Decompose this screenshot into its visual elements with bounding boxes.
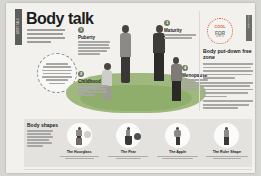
page-title: Body talk	[26, 11, 94, 27]
body-shape-item[interactable]: The Ruler Shape	[205, 123, 249, 161]
edge-tab: BODY TALK	[246, 15, 252, 41]
body-shape-label: The Ruler Shape	[205, 150, 249, 154]
body-shape-label: The Pear	[106, 150, 150, 154]
stage-childhood: 2 Childhood	[78, 71, 108, 97]
body-shape-item[interactable]: The Apple	[156, 123, 200, 161]
body-shape-item[interactable]: The Hourglass	[57, 123, 101, 161]
figure-puberty	[114, 25, 136, 83]
body-shape-desc	[205, 156, 249, 160]
footer-rule	[24, 169, 252, 170]
decorative-dot	[134, 133, 141, 140]
body-shape-desc	[106, 156, 150, 160]
badge-line-3: GIRLS	[205, 35, 235, 38]
sidebar-paragraph-1	[203, 63, 253, 79]
stage-heading-puberty: Puberty	[78, 35, 110, 40]
body-shape-desc	[57, 156, 101, 160]
stage-marker-3: 3	[164, 20, 170, 26]
sidebar-paragraph-3	[203, 100, 253, 109]
apple-figure-icon	[165, 123, 190, 148]
edge-tab-label: BODY TALK	[246, 15, 252, 29]
body-shape-label: The Hourglass	[57, 150, 101, 154]
body-shapes-intro	[27, 130, 53, 149]
page-paper: BODY TALK Body talk	[6, 3, 255, 173]
stage-heading-maturity: Maturity	[164, 28, 196, 33]
stage-body-maturity	[164, 34, 196, 39]
column-divider	[199, 11, 200, 111]
sidebar-heading: Body put-down free zone	[203, 49, 253, 60]
ruler-figure-icon	[214, 123, 239, 148]
stage-body-childhood	[78, 85, 108, 96]
badge-line-1: COOL	[205, 25, 235, 29]
stage-marker-1: 1	[78, 27, 84, 33]
standfirst-text	[27, 29, 65, 45]
stage-maturity: 3 Maturity	[164, 20, 196, 40]
body-shape-label: The Apple	[156, 150, 200, 154]
body-shape-item[interactable]: The Pear	[106, 123, 150, 161]
spine-tab-label: BODY TALK	[15, 9, 22, 45]
body-shapes-list: The Hourglass The Pear	[57, 123, 249, 161]
decorative-dot	[84, 131, 91, 138]
cool-for-girls-badge: COOL FOR GIRLS	[205, 16, 235, 46]
stage-marker-4: 4	[182, 65, 188, 71]
body-shapes-heading: Body shapes	[27, 122, 58, 128]
stage-puberty: 1 Puberty	[78, 27, 110, 56]
sidebar-paragraph-2	[203, 82, 253, 98]
body-shapes-panel: Body shapes The Hourglass	[24, 119, 252, 167]
stage-marker-2: 2	[78, 71, 84, 77]
sidebar-body-put-down: Body put-down free zone	[203, 49, 253, 111]
magazine-page: BODY TALK Body talk	[0, 0, 261, 176]
body-shape-desc	[156, 156, 200, 160]
stage-heading-childhood: Childhood	[78, 79, 108, 84]
stage-body-puberty	[78, 41, 110, 55]
